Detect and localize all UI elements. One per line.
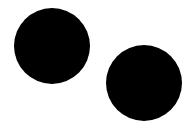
canvas xyxy=(0,0,193,130)
circle-1 xyxy=(14,8,90,84)
circle-2 xyxy=(106,45,182,121)
